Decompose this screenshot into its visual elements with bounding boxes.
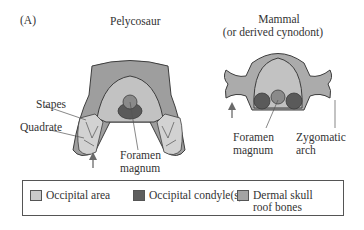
legend-swatch-dermal-skull-roof <box>237 190 249 201</box>
legend: Occipital area Occipital condyle(s) Derm… <box>22 180 344 216</box>
zygomatic-label-line2: arch <box>296 144 346 157</box>
pelycosaur-skull <box>45 61 185 169</box>
legend-label-line1: Dermal skull <box>253 189 313 201</box>
legend-label: Occipital condyle(s) <box>149 189 243 201</box>
legend-label-line2: roof bones <box>253 201 313 213</box>
legend-item-dermal-skull-roof: Dermal skull roof bones <box>237 189 313 213</box>
mammal-skull <box>224 54 335 129</box>
mammal-title: Mammal (or derived cynodont) <box>233 13 325 39</box>
panel-label: (A) <box>20 14 36 27</box>
mammal-title-line2: (or derived cynodont) <box>221 26 325 39</box>
quadrate-label: Quadrate <box>20 121 62 134</box>
legend-item-occipital-area: Occipital area <box>30 189 110 201</box>
stapes-label: Stapes <box>36 98 66 111</box>
mammal-arrow-icon <box>228 102 236 118</box>
zygomatic-label-line1: Zygomatic <box>296 131 346 144</box>
legend-label: Occipital area <box>46 189 110 201</box>
legend-swatch-occipital-area <box>30 190 42 201</box>
legend-label: Dermal skull roof bones <box>253 189 313 213</box>
legend-swatch-occipital-condyles <box>133 190 145 201</box>
mammal-foramen-label: Foramen magnum <box>233 131 274 157</box>
mammal-right-condyle <box>286 93 302 109</box>
foramen-label-line2: magnum <box>233 144 274 157</box>
pelycosaur-title: Pelycosaur <box>110 15 160 28</box>
zygomatic-arch-label: Zygomatic arch <box>296 131 346 157</box>
pelycosaur-foramen-label: Foramen magnum <box>120 149 161 175</box>
legend-item-occipital-condyles: Occipital condyle(s) <box>133 189 243 201</box>
foramen-label-line1: Foramen <box>233 131 274 144</box>
mammal-title-line1: Mammal <box>233 13 325 26</box>
mammal-left-condyle <box>254 93 270 109</box>
mammal-foramen-magnum <box>271 90 285 104</box>
foramen-label-line2: magnum <box>120 162 161 175</box>
foramen-label-line1: Foramen <box>120 149 161 162</box>
